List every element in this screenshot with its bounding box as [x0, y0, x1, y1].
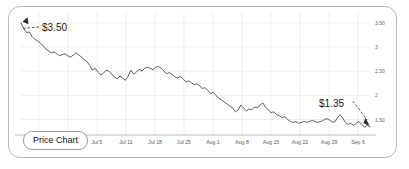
price-chart-button[interactable]: Price Chart: [23, 131, 88, 150]
end-annotation-label: $1.35: [319, 98, 344, 109]
y-tick-label: 2: [375, 92, 378, 98]
y-tick-label: 3: [375, 44, 378, 50]
y-tick-label: 2.50: [375, 68, 385, 74]
end-annotation-arrowhead: [364, 118, 370, 126]
y-axis-tick-labels: 3.5032.5021.50: [375, 20, 385, 123]
end-annotation-arrow: [353, 101, 367, 120]
x-tick-label: Aug 29: [321, 139, 338, 145]
start-annotation-arrow: [22, 27, 39, 29]
x-tick-label: Aug 1: [206, 139, 220, 145]
price-chart-card: 3.5032.5021.50 Jun 20Jun 27Jul 5Jul 11Ju…: [8, 6, 397, 158]
x-tick-label: Aug 22: [292, 139, 309, 145]
gridlines: [21, 13, 370, 135]
x-tick-label: Sep 6: [351, 139, 365, 145]
x-tick-label: Aug 15: [263, 139, 280, 145]
x-tick-label: Jul 5: [92, 139, 103, 145]
x-tick-label: Jul 11: [119, 139, 133, 145]
x-tick-label: Jul 18: [148, 139, 162, 145]
y-tick-label: 3.50: [375, 20, 385, 26]
annotation-layer: $3.50 $1.35: [22, 17, 370, 125]
start-annotation-arrowhead: [23, 17, 29, 24]
x-tick-label: Jul 25: [177, 139, 191, 145]
start-annotation-label: $3.50: [42, 22, 67, 33]
y-tick-label: 1.50: [375, 117, 385, 123]
price-line-path: [21, 23, 370, 127]
x-tick-label: Aug 8: [235, 139, 249, 145]
